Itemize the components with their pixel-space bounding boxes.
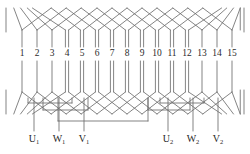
terminal-label-U1: U1 [29,133,39,145]
bottom-end-turn-tail-15 [232,92,240,114]
slot-number-10: 10 [152,48,162,58]
lap-winding-schematic: 123456789101112131415 U1W1V1U2W2V2 [0,0,250,154]
top-end-turn-lead-1 [14,8,22,30]
top-end-turn-fall-4 [97,8,125,30]
slot-number-8: 8 [125,48,130,58]
top-end-turn-fall-2 [66,8,95,30]
top-end-turn-rise-6 [99,8,127,30]
top-end-turn-rise-4 [69,8,97,30]
top-end-turn-fall-7 [142,8,170,30]
bottom-end-turn-fall-4 [69,92,97,114]
bottom-end-turn-fall-8 [129,92,157,114]
slot-number-3: 3 [50,48,55,58]
top-end-turn-rise-11 [174,8,203,30]
bottom-end-turns-group [6,90,244,114]
top-end-turn-rise-2 [37,8,66,30]
top-end-turn-rise-8 [129,8,157,30]
top-end-turn-fall-6 [127,8,155,30]
top-end-turn-tail-rise-14 [217,8,234,30]
terminal-label-V2: V2 [213,133,223,145]
top-end-turn-fall-3 [81,8,110,30]
bottom-end-turn-rise-4 [97,92,125,114]
bottom-end-turn-lead-1 [14,92,22,114]
bottom-end-turn-tail-14 [217,92,234,114]
slot-number-11: 11 [167,48,176,58]
top-end-turn-rise-5 [84,8,112,30]
phase-jumper-connections-group [28,98,204,121]
top-end-turn-lead-2 [21,8,38,30]
slot-number-4: 4 [65,48,70,58]
top-end-turn-fall-8 [157,8,185,30]
bottom-end-turn-fall-6 [99,92,127,114]
top-end-turn-fall-10 [188,8,217,30]
slot-number-14: 14 [212,48,222,58]
terminal-label-W2: W2 [187,133,200,145]
winding-diagram-canvas: 123456789101112131415 U1W1V1U2W2V2 [0,0,250,154]
top-end-turn-tail-rise-15 [232,8,240,30]
bottom-end-turn-rise-3 [81,92,110,114]
top-end-turn-fall-9 [173,8,202,30]
slot-number-5: 5 [80,48,85,58]
top-end-turn-rise-9 [144,8,173,30]
stator-slot-bars-group [22,30,232,92]
slot-number-1: 1 [20,48,25,58]
top-end-turn-rise-7 [114,8,142,30]
top-end-turns-group [6,8,244,32]
bottom-end-turn-rise-6 [127,92,155,114]
slot-number-2: 2 [35,48,40,58]
top-end-turn-rise-10 [159,8,188,30]
slot-number-13: 13 [197,48,207,58]
bottom-end-turn-fall-7 [114,92,142,114]
terminal-labels-group: U1W1V1U2W2V2 [29,133,223,145]
top-end-turn-fall-1 [51,8,80,30]
top-end-turn-rise-3 [52,8,81,30]
slot-number-labels-group: 123456789101112131415 [20,48,237,58]
slot-number-15: 15 [227,48,237,58]
slot-number-9: 9 [140,48,145,58]
top-end-turn-fall-5 [112,8,140,30]
terminal-label-W1: W1 [53,133,66,145]
bottom-end-turn-rise-5 [112,92,140,114]
terminal-label-U2: U2 [163,133,173,145]
terminal-label-V1: V1 [79,133,89,145]
slot-number-6: 6 [95,48,100,58]
slot-number-7: 7 [110,48,115,58]
slot-number-12: 12 [182,48,192,58]
